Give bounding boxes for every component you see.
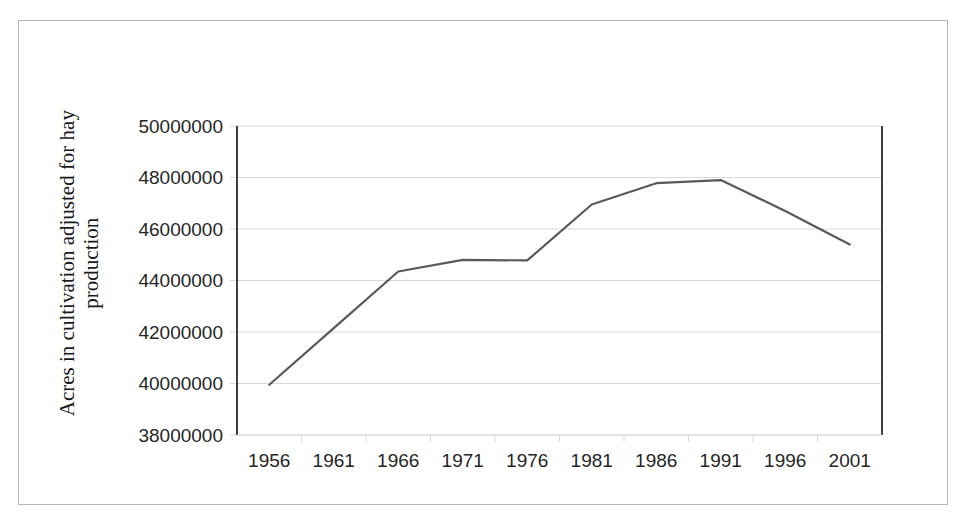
y-tick-label: 48000000 bbox=[138, 167, 223, 188]
x-tick-label: 1961 bbox=[313, 450, 355, 471]
y-tick-label: 38000000 bbox=[138, 425, 223, 446]
x-tick-label: 1991 bbox=[700, 450, 742, 471]
x-tick-label: 1956 bbox=[248, 450, 290, 471]
x-tick-label: 1971 bbox=[442, 450, 484, 471]
x-tick-marks-group bbox=[302, 435, 818, 442]
y-tick-label: 40000000 bbox=[138, 373, 223, 394]
x-tick-label: 1981 bbox=[571, 450, 613, 471]
y-tick-label: 42000000 bbox=[138, 322, 223, 343]
y-tick-labels-group: 5000000048000000460000004400000042000000… bbox=[138, 116, 223, 446]
x-tick-label: 1986 bbox=[635, 450, 677, 471]
chart-figure: Acres in cultivation adjusted for hay pr… bbox=[18, 20, 948, 505]
x-tick-labels-group: 1956196119661971197619811986199119962001 bbox=[248, 450, 871, 471]
y-tick-label: 46000000 bbox=[138, 219, 223, 240]
y-tick-label: 44000000 bbox=[138, 270, 223, 291]
y-tick-marks-group bbox=[230, 126, 237, 435]
x-tick-label: 1976 bbox=[506, 450, 548, 471]
x-tick-label: 2001 bbox=[829, 450, 871, 471]
x-tick-label: 1996 bbox=[764, 450, 806, 471]
data-series-line bbox=[269, 180, 850, 385]
x-tick-label: 1966 bbox=[377, 450, 419, 471]
line-chart-plot: 5000000048000000460000004400000042000000… bbox=[19, 21, 947, 504]
y-tick-label: 50000000 bbox=[138, 116, 223, 137]
gridlines-group bbox=[237, 126, 882, 435]
